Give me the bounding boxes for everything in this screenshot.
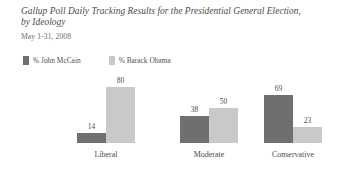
category-label-liberal: Liberal [61, 150, 151, 160]
bar-value-liberal-obama: 80 [101, 76, 141, 85]
bar-wrap-moderate-mccain: 38 [180, 73, 209, 143]
bar-liberal-obama [106, 87, 135, 143]
bar-group-conservative: 69 23 [264, 73, 339, 143]
legend-label-mccain: % John McCain [33, 56, 81, 65]
bar-wrap-conservative-mccain: 69 [264, 73, 293, 143]
legend-item-mccain: % John McCain [23, 56, 81, 65]
bar-wrap-liberal-obama: 80 [106, 73, 135, 143]
chart-title: Gallup Poll Daily Tracking Results for t… [21, 6, 321, 29]
chart-legend: % John McCain % Barack Obama [23, 56, 171, 65]
bar-wrap-conservative-obama: 23 [293, 73, 322, 143]
legend-swatch-obama [109, 56, 115, 65]
bar-group-moderate: 38 50 [180, 73, 264, 143]
chart-subtitle-daterange: May 1-31, 2008 [21, 32, 321, 41]
bar-conservative-obama [293, 127, 322, 143]
bar-group-liberal: 14 80 [77, 73, 161, 143]
bar-moderate-obama [209, 108, 238, 143]
category-label-conservative: Conservative [248, 150, 338, 160]
legend-swatch-mccain [23, 56, 29, 65]
bar-wrap-moderate-obama: 50 [209, 73, 238, 143]
legend-item-obama: % Barack Obama [109, 56, 171, 65]
bar-liberal-mccain [77, 133, 106, 143]
plot-area: 14 80 38 50 [21, 73, 321, 143]
chart-title-line-2: by Ideology [21, 17, 66, 27]
chart-title-line-1: Gallup Poll Daily Tracking Results for t… [21, 6, 301, 16]
bar-value-moderate-obama: 50 [204, 97, 244, 106]
category-label-moderate: Moderate [164, 150, 254, 160]
title-block: Gallup Poll Daily Tracking Results for t… [21, 6, 321, 41]
legend-label-obama: % Barack Obama [119, 56, 171, 65]
bar-moderate-mccain [180, 116, 209, 143]
category-axis-labels: Liberal Moderate Conservative [21, 150, 321, 164]
bar-value-conservative-obama: 23 [288, 116, 328, 125]
chart-figure: Gallup Poll Daily Tracking Results for t… [0, 0, 339, 171]
